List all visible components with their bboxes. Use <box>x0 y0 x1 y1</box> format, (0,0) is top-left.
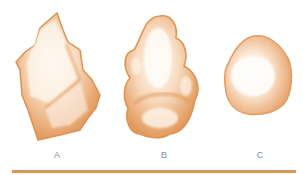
grain-b-subrounded <box>124 16 198 138</box>
grain-shapes-diagram <box>0 0 303 175</box>
grain-c-rounded <box>225 36 292 115</box>
baseline-rule <box>12 170 296 173</box>
grain-a-angular <box>16 13 100 140</box>
label-a: A <box>47 150 67 160</box>
label-c: C <box>250 150 270 160</box>
label-b: B <box>154 150 174 160</box>
